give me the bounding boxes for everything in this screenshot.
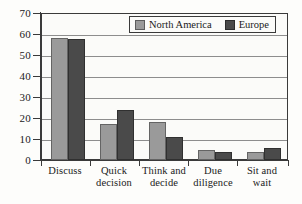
y-axis-tick xyxy=(33,139,40,140)
y-tick-label: 0 xyxy=(1,155,31,166)
y-axis-tick xyxy=(33,97,40,98)
bar-europe xyxy=(215,152,232,160)
bar-north-america xyxy=(51,38,68,160)
legend-swatch-icon xyxy=(225,20,235,30)
bars-layer xyxy=(41,13,288,160)
bar-north-america xyxy=(100,124,117,160)
y-axis-tick xyxy=(33,118,40,119)
legend-label: North America xyxy=(149,19,212,30)
bar-europe xyxy=(68,39,85,160)
bar-europe xyxy=(166,137,183,160)
x-axis-line xyxy=(33,160,289,161)
bar-group-discuss xyxy=(47,13,89,160)
y-axis-tick xyxy=(33,13,40,14)
y-tick-label: 60 xyxy=(1,29,31,40)
bar-north-america xyxy=(149,122,166,160)
legend: North America Europe xyxy=(129,16,276,33)
y-tick-label: 20 xyxy=(1,113,31,124)
legend-item-north-america: North America xyxy=(135,19,212,30)
y-axis-tick xyxy=(33,76,40,77)
x-category-label-sit-and-wait: Sit and wait xyxy=(231,165,293,188)
bar-group-think-and-decide xyxy=(145,13,187,160)
bar-europe xyxy=(117,110,134,160)
legend-swatch-icon xyxy=(135,20,145,30)
y-tick-label: 70 xyxy=(1,8,31,19)
bar-group-quick-decision xyxy=(96,13,138,160)
y-axis-labels: 70 60 50 40 30 20 10 0 xyxy=(0,0,31,204)
y-axis-tick xyxy=(33,55,40,56)
y-tick-label: 50 xyxy=(1,50,31,61)
bar-north-america xyxy=(247,152,264,160)
category-line: Sit and xyxy=(231,165,293,177)
bar-group-sit-and-wait xyxy=(243,13,285,160)
legend-item-europe: Europe xyxy=(225,19,269,30)
legend-label: Europe xyxy=(239,19,269,30)
bar-europe xyxy=(264,148,281,160)
bar-chart: 70 60 50 40 30 20 10 0 xyxy=(0,0,302,204)
y-tick-label: 30 xyxy=(1,92,31,103)
y-tick-label: 10 xyxy=(1,134,31,145)
category-line: wait xyxy=(231,177,293,189)
y-tick-label: 40 xyxy=(1,71,31,82)
bar-group-due-diligence xyxy=(194,13,236,160)
bar-north-america xyxy=(198,150,215,161)
y-axis-tick xyxy=(33,34,40,35)
